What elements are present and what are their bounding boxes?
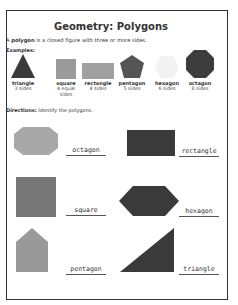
example-desc: 5 sides <box>114 86 150 92</box>
answer-triangle: triangle <box>179 265 219 275</box>
example-desc: 6 sides <box>149 86 185 92</box>
directions-text: Identify the polygons. <box>37 107 93 113</box>
triangle-icon <box>10 53 36 79</box>
triangle-shape <box>120 228 174 272</box>
example-rectangle: rectangle 4 sides <box>80 53 116 92</box>
example-desc: 3 sides <box>5 86 41 92</box>
directions: Directions: Identify the polygons. <box>6 107 93 113</box>
answer-octagon: octagon <box>66 146 106 156</box>
answer-pentagon: pentagon <box>66 265 106 275</box>
directions-label: Directions: <box>6 107 37 113</box>
answer-square: square <box>66 206 106 216</box>
example-hexagon: hexagon 6 sides <box>149 53 185 92</box>
example-octagon: octagon 8 sides <box>182 53 218 92</box>
rectangle-icon <box>81 53 115 79</box>
page-title: Geometry: Polygons <box>0 21 222 32</box>
example-square: square 4 equal sides <box>48 53 84 97</box>
answer-rectangle: rectangle <box>179 147 219 157</box>
polygon-definition: A polygon is a closed figure with three … <box>6 37 147 43</box>
example-pentagon: pentagon 5 sides <box>114 53 150 92</box>
rectangle-shape <box>127 130 175 156</box>
square-icon <box>55 53 77 79</box>
pentagon-icon <box>119 53 145 79</box>
example-triangle: triangle 3 sides <box>5 53 41 92</box>
answer-hexagon: hexagon <box>179 207 219 217</box>
hexagon-icon <box>154 53 180 79</box>
octagon-icon <box>185 49 215 79</box>
octagon-shape <box>13 126 59 156</box>
square-shape <box>16 177 56 217</box>
example-desc: 8 sides <box>182 86 218 92</box>
hexagon-shape <box>118 186 180 216</box>
pentagon-shape <box>16 228 48 272</box>
example-desc: 4 equal sides <box>56 86 76 97</box>
definition-term: polygon <box>11 37 34 43</box>
definition-suffix: is a closed figure with three or more si… <box>35 37 147 43</box>
example-desc: 4 sides <box>80 86 116 92</box>
